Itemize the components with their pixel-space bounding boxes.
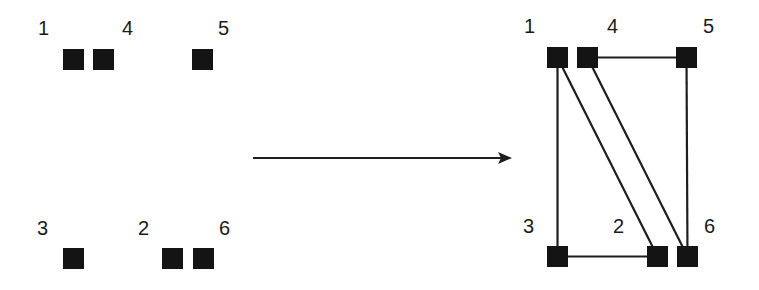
left-node-3: [63, 248, 84, 269]
right-node-1: [547, 47, 568, 68]
left-graph: 145326: [37, 17, 230, 269]
left-node-label-4: 4: [122, 17, 133, 39]
right-node-label-1: 1: [524, 15, 535, 37]
right-node-label-5: 5: [703, 15, 714, 37]
left-node-6: [193, 248, 214, 269]
right-node-2: [647, 246, 668, 267]
right-node-label-2: 2: [613, 215, 624, 237]
right-node-3: [547, 246, 568, 267]
left-node-2: [162, 248, 183, 269]
left-node-label-5: 5: [218, 17, 229, 39]
right-edge-4-6: [588, 58, 688, 257]
right-node-label-6: 6: [704, 215, 715, 237]
left-node-5: [192, 49, 213, 70]
right-node-4: [577, 47, 598, 68]
right-graph: 145326: [523, 15, 715, 267]
right-edge-1-2: [558, 58, 658, 257]
left-node-1: [63, 49, 84, 70]
left-node-label-3: 3: [37, 217, 48, 239]
left-node-label-2: 2: [138, 217, 149, 239]
left-node-label-6: 6: [219, 217, 230, 239]
right-node-5: [676, 47, 697, 68]
left-node-label-1: 1: [38, 17, 49, 39]
left-node-4: [93, 49, 114, 70]
right-edge-5-6: [687, 58, 688, 257]
right-node-label-3: 3: [523, 215, 534, 237]
right-node-6: [677, 246, 698, 267]
right-node-label-4: 4: [607, 15, 618, 37]
diagram-canvas: 145326 145326: [0, 0, 759, 290]
